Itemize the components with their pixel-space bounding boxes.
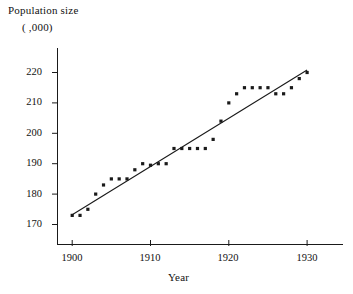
scatter-plot-figure: Population size ( ,000) Year 220 210 200… xyxy=(0,0,353,294)
data-point xyxy=(274,92,277,95)
data-point xyxy=(282,92,285,95)
data-point xyxy=(235,92,238,95)
data-point xyxy=(266,86,269,89)
y-tick-label-210: 210 xyxy=(16,96,42,107)
data-point xyxy=(157,162,160,165)
data-point xyxy=(188,147,191,150)
data-point xyxy=(196,147,199,150)
data-point xyxy=(78,214,81,217)
y-tick-label-180: 180 xyxy=(16,188,42,199)
y-tick-label-220: 220 xyxy=(16,66,42,77)
regression-line xyxy=(72,70,307,215)
x-axis-title: Year xyxy=(168,271,189,283)
data-point xyxy=(110,177,113,180)
data-point xyxy=(243,86,246,89)
y-axis-title-units: ( ,000) xyxy=(22,21,53,33)
data-point xyxy=(290,86,293,89)
data-point xyxy=(149,164,152,167)
data-point xyxy=(86,208,89,211)
data-point xyxy=(165,162,168,165)
data-point xyxy=(94,193,97,196)
data-point xyxy=(133,168,136,171)
data-point xyxy=(141,162,144,165)
data-point xyxy=(125,177,128,180)
data-point xyxy=(118,177,121,180)
regression-line-group xyxy=(72,70,307,215)
x-tick-label-1900: 1900 xyxy=(55,252,89,263)
data-point xyxy=(212,138,215,141)
data-point-group xyxy=(71,71,309,217)
y-tick-label-190: 190 xyxy=(16,157,42,168)
data-point xyxy=(180,147,183,150)
data-point xyxy=(219,120,222,123)
data-point xyxy=(227,101,230,104)
data-point xyxy=(204,147,207,150)
data-point xyxy=(172,147,175,150)
data-point xyxy=(102,183,105,186)
data-point xyxy=(306,71,309,74)
x-axis-ticks xyxy=(72,240,307,246)
data-point xyxy=(298,77,301,80)
y-tick-label-200: 200 xyxy=(16,127,42,138)
y-tick-label-170: 170 xyxy=(16,218,42,229)
x-tick-label-1920: 1920 xyxy=(211,252,245,263)
plot-canvas xyxy=(0,0,353,294)
x-tick-label-1910: 1910 xyxy=(133,252,167,263)
x-tick-label-1930: 1930 xyxy=(290,252,324,263)
y-axis-title-line1: Population size xyxy=(8,4,79,16)
data-point xyxy=(259,86,262,89)
data-point xyxy=(251,86,254,89)
data-point xyxy=(71,214,74,217)
